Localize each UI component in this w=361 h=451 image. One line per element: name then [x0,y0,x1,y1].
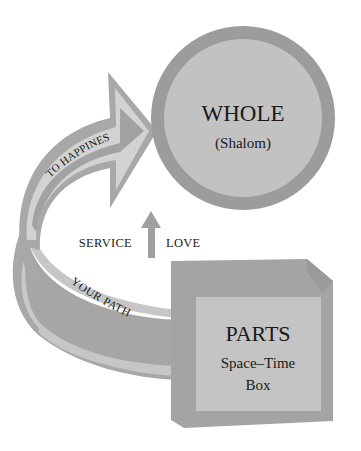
whole-title: WHOLE [201,101,284,126]
whole-subtitle: (Shalom) [215,135,271,152]
diagram-canvas: YOUR PATH TO HAPPINES WHOLE (Shalom) [0,0,361,451]
love-label: LOVE [166,236,201,250]
up-arrow [141,211,161,258]
parts-line1: Space–Time [221,355,296,371]
parts-title: PARTS [225,321,290,346]
whole-circle: WHOLE (Shalom) [151,26,335,210]
service-label: SERVICE [79,236,132,250]
parts-line2: Box [245,377,271,393]
parts-box: PARTS Space–Time Box [171,259,333,428]
